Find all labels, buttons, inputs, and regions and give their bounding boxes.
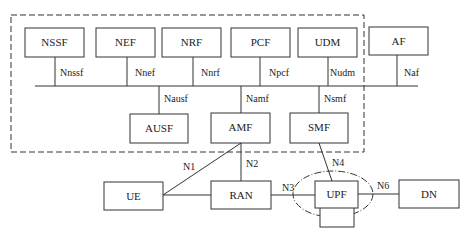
node-ue[interactable]: UE [104,182,163,210]
node-nssf[interactable]: NSSF [25,28,84,57]
nsmf-label: Nsmf [324,93,347,104]
node-pcf[interactable]: PCF [231,28,290,57]
architecture-diagram: NSSF Nnssf NEF Nnef NRF Nnrf PCF Npcf UD… [0,0,469,239]
node-dn[interactable]: DN [399,180,459,208]
n2-label: N2 [246,158,258,169]
node-nrf[interactable]: NRF [162,28,221,57]
upf-secondary-box [320,207,354,227]
nssf-label: NSSF [41,36,67,48]
dn-label: DN [421,188,437,200]
node-smf[interactable]: SMF [290,113,348,143]
af-label: AF [391,35,405,47]
nnssf-label: Nnssf [60,67,84,78]
ran-label: RAN [229,189,252,201]
smf-label: SMF [308,121,330,133]
nudm-label: Nudm [330,67,355,78]
n1-label: N1 [183,161,195,172]
npcf-label: Npcf [269,67,290,78]
nnef-label: Nnef [135,67,156,78]
udm-label: UDM [315,36,341,48]
node-upf[interactable]: UPF [315,181,358,208]
n4-label: N4 [332,157,344,168]
node-nef[interactable]: NEF [96,28,155,57]
namf-label: Namf [246,93,269,104]
n6-label: N6 [377,180,389,191]
node-af[interactable]: AF [369,27,428,55]
nnrf-label: Nnrf [201,67,221,78]
node-amf[interactable]: AMF [211,113,270,143]
n4-link [319,143,332,181]
upf-label: UPF [326,188,346,200]
naf-label: Naf [404,67,420,78]
pcf-label: PCF [251,36,271,48]
nef-label: NEF [115,36,136,48]
node-ran[interactable]: RAN [211,181,271,209]
nrf-label: NRF [181,36,202,48]
n3-label: N3 [282,182,294,193]
amf-label: AMF [229,121,253,133]
ue-label: UE [126,190,141,202]
node-ausf[interactable]: AUSF [130,114,188,143]
node-udm[interactable]: UDM [298,28,357,57]
nausf-label: Nausf [164,93,189,104]
ausf-label: AUSF [145,122,173,134]
